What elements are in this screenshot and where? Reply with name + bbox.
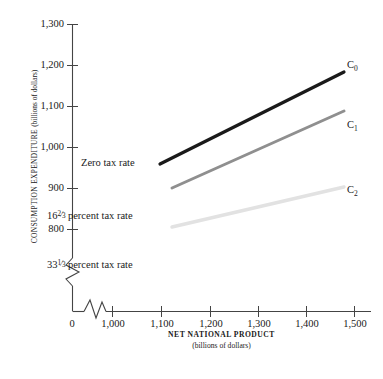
annotation-33-13-numerator: 1 [58, 259, 61, 267]
x-tick-label-1500: 1,500 [332, 318, 378, 329]
annotation-16-23-fraction: 2⁄3 [58, 211, 66, 219]
series-label-C1-subscript: 1 [354, 124, 358, 133]
chart-figure: 1,300 1,200 1,100 1,000 900 800 0 1,000 … [0, 0, 383, 379]
series-label-C1: C1 [347, 119, 358, 133]
y-axis-title-main: CONSUMPTION EXPENDITURE [30, 129, 39, 243]
y-tick-label-1000: 1,000 [18, 141, 64, 152]
x-tick-label-1000: 1,000 [90, 318, 136, 329]
series-label-C0: C0 [347, 59, 358, 73]
y-tick-label-900: 900 [18, 182, 64, 193]
series-line-C0 [160, 72, 344, 164]
series-label-C2-text: C [347, 184, 354, 195]
annotation-16-23-percent-tax-rate: 162⁄3 percent tax rate [47, 210, 133, 221]
x-tick-label-1400: 1,400 [284, 318, 330, 329]
x-axis-break-icon [84, 300, 106, 318]
y-axis-title-units: (billions of dollars) [30, 70, 39, 127]
x-tick-label-0: 0 [58, 318, 86, 329]
series-label-C0-subscript: 0 [354, 64, 358, 73]
annotation-zero-tax-rate: Zero tax rate [81, 157, 135, 168]
annotation-33-13-fraction: 1⁄3 [58, 260, 66, 268]
y-axis-title: CONSUMPTION EXPENDITURE (billions of dol… [30, 37, 39, 277]
series-label-C1-text: C [347, 119, 354, 130]
series-line-C1 [172, 111, 344, 188]
y-tick-label-1300: 1,300 [18, 18, 64, 29]
series-label-C2-subscript: 2 [354, 189, 358, 198]
x-tick-label-1100: 1,100 [139, 318, 185, 329]
annotation-33-13-percent-tax-rate: 331⁄3 percent tax rate [47, 259, 133, 270]
annotation-33-13-rest: percent tax rate [65, 259, 132, 270]
annotation-zero-tax-rate-text: Zero tax rate [81, 157, 135, 168]
annotation-16-23-rest: percent tax rate [65, 210, 132, 221]
x-tick-label-1200: 1,200 [188, 318, 234, 329]
annotation-16-23-denominator: 3 [62, 212, 65, 220]
series-label-C0-text: C [347, 59, 354, 70]
annotation-33-13-denominator: 3 [62, 261, 65, 269]
annotation-16-23-number: 16 [47, 210, 58, 221]
x-tick-label-1300: 1,300 [236, 318, 282, 329]
annotation-33-13-number: 33 [47, 259, 58, 270]
y-tick-label-1200: 1,200 [18, 59, 64, 70]
series-line-C2 [172, 187, 344, 227]
x-axis-title-units: (billions of dollars) [72, 341, 371, 350]
annotation-16-23-numerator: 2 [58, 210, 61, 218]
series-label-C2: C2 [347, 184, 358, 198]
x-axis-title: NET NATIONAL PRODUCT [72, 330, 371, 339]
y-tick-label-800: 800 [18, 223, 64, 234]
y-tick-label-1100: 1,100 [18, 100, 64, 111]
